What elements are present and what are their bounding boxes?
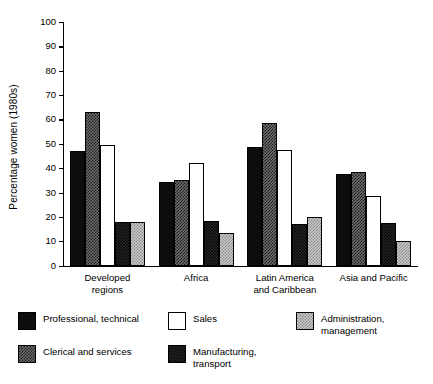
- x-axis-label-line: Africa: [152, 272, 241, 284]
- y-tick-label-90: 90: [45, 42, 56, 52]
- bar-group: [241, 22, 330, 266]
- y-tick-label-60: 60: [45, 115, 56, 125]
- bar: [159, 182, 174, 266]
- bar: [262, 123, 277, 266]
- legend-label: Manufacturing,transport: [193, 345, 256, 369]
- bar-groups: [63, 22, 418, 266]
- bar: [247, 147, 262, 265]
- bar: [100, 145, 115, 266]
- bar: [307, 217, 322, 266]
- y-tick-label-30: 30: [45, 188, 56, 198]
- chart-legend: Professional, technicalSalesAdministrati…: [18, 312, 422, 369]
- y-tick-0: [59, 266, 63, 267]
- legend-label-line: management: [321, 325, 384, 337]
- y-tick-label-50: 50: [45, 139, 56, 149]
- bar: [85, 112, 100, 265]
- x-axis-label: Latin Americaand Caribbean: [241, 272, 330, 295]
- legend-label: Professional, technical: [43, 312, 139, 325]
- x-axis-label-line: Developed: [63, 272, 152, 284]
- x-axis-line: [63, 266, 418, 267]
- bar-chart: Percentage women (1980s) 010203040506070…: [0, 0, 433, 384]
- x-axis-label: Developedregions: [63, 272, 152, 295]
- legend-label-line: transport: [193, 358, 256, 370]
- x-axis-label: Africa: [152, 272, 241, 295]
- y-tick-label-100: 100: [40, 17, 56, 27]
- bar: [174, 180, 189, 265]
- legend-label-line: Professional, technical: [43, 313, 139, 325]
- x-axis-category-labels: DevelopedregionsAfricaLatin Americaand C…: [63, 272, 418, 295]
- bar-group: [329, 22, 418, 266]
- legend-label-line: Sales: [193, 313, 217, 325]
- bar: [130, 222, 145, 266]
- bar-group: [152, 22, 241, 266]
- bar: [277, 150, 292, 266]
- legend-swatch-icon: [296, 312, 314, 330]
- y-tick-label-70: 70: [45, 90, 56, 100]
- bar: [204, 221, 219, 266]
- bar: [351, 172, 366, 266]
- y-tick-label-0: 0: [51, 261, 56, 271]
- y-tick-label-10: 10: [45, 236, 56, 246]
- legend-label: Administration,management: [321, 312, 384, 336]
- legend-swatch-icon: [168, 345, 186, 363]
- legend-label: Clerical and services: [43, 345, 132, 358]
- bar: [189, 163, 204, 265]
- bar: [292, 224, 307, 265]
- legend-label-line: Clerical and services: [43, 346, 132, 358]
- bar: [396, 241, 411, 265]
- y-tick-label-80: 80: [45, 66, 56, 76]
- bar-group: [63, 22, 152, 266]
- legend-item[interactable]: Clerical and services: [18, 345, 168, 369]
- legend-item[interactable]: Administration,management: [296, 312, 422, 336]
- bar: [219, 233, 234, 266]
- legend-item[interactable]: Sales: [168, 312, 296, 336]
- bar: [115, 222, 130, 266]
- legend-swatch-icon: [168, 312, 186, 330]
- y-tick-label-40: 40: [45, 163, 56, 173]
- x-axis-label-line: Latin America: [241, 272, 330, 284]
- x-axis-label-line: and Caribbean: [241, 284, 330, 296]
- legend-item[interactable]: Manufacturing,transport: [168, 345, 296, 369]
- legend-swatch-icon: [18, 345, 36, 363]
- x-axis-label: Asia and Pacific: [329, 272, 418, 295]
- legend-swatch-icon: [18, 312, 36, 330]
- x-axis-label-line: Asia and Pacific: [329, 272, 418, 284]
- plot-area: 0102030405060708090100: [63, 22, 418, 267]
- bar: [336, 174, 351, 265]
- bar: [366, 196, 381, 265]
- y-axis-title-text: Percentage women (1980s): [8, 62, 19, 232]
- y-tick-label-20: 20: [45, 212, 56, 222]
- bar: [381, 223, 396, 266]
- legend-label-line: Manufacturing,: [193, 346, 256, 358]
- bar: [70, 151, 85, 265]
- legend-item[interactable]: Professional, technical: [18, 312, 168, 336]
- legend-label-line: Administration,: [321, 313, 384, 325]
- legend-label: Sales: [193, 312, 217, 325]
- x-axis-label-line: regions: [63, 284, 152, 296]
